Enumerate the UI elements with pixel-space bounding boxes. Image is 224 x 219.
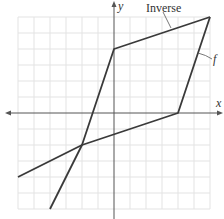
x-axis-left-arrow-icon	[5, 111, 11, 116]
y-axis-label: y	[117, 0, 124, 13]
function-inverse-graph: Inverse f y x	[0, 0, 224, 219]
inverse-label: Inverse	[146, 1, 181, 15]
y-axis-up-arrow-icon	[112, 1, 117, 7]
x-axis-label: x	[215, 96, 222, 110]
f-label: f	[213, 52, 218, 66]
axes	[5, 1, 223, 219]
x-axis-right-arrow-icon	[217, 111, 223, 116]
